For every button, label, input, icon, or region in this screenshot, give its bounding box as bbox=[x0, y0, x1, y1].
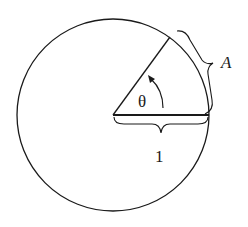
arc-label: A bbox=[220, 53, 232, 72]
radius-brace bbox=[114, 117, 208, 133]
angle-arc bbox=[151, 79, 163, 108]
angle-label: θ bbox=[138, 92, 146, 111]
unit-circle-diagram: A θ 1 bbox=[0, 0, 248, 227]
radius-label: 1 bbox=[155, 147, 164, 166]
